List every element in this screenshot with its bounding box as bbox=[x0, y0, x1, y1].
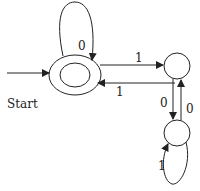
state-q1 bbox=[164, 53, 190, 79]
label-q2-q2: 1 bbox=[158, 160, 166, 172]
start-label: Start bbox=[7, 98, 38, 110]
label-q2-q1: 0 bbox=[186, 103, 194, 115]
state-q0-outer bbox=[49, 55, 101, 95]
state-diagram bbox=[0, 0, 200, 191]
transition-q0-q0 bbox=[60, 2, 93, 60]
label-q0-q1: 1 bbox=[135, 52, 143, 64]
state-q0-inner bbox=[60, 63, 90, 87]
label-q0-q0: 0 bbox=[78, 40, 86, 52]
label-q1-q2: 0 bbox=[160, 97, 168, 109]
label-q1-q0: 1 bbox=[116, 86, 124, 98]
transition-q2-q2 bbox=[163, 142, 187, 184]
